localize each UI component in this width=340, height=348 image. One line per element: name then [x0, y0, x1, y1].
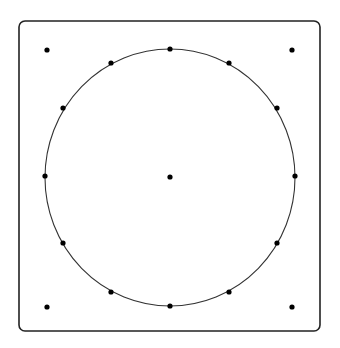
circle-point [108, 289, 113, 294]
circle-point [274, 105, 279, 110]
corner-point [289, 304, 294, 309]
corner-point [289, 47, 294, 52]
circle-point [60, 240, 65, 245]
center-point [167, 174, 172, 179]
corner-point [44, 304, 49, 309]
corner-point [44, 47, 49, 52]
circle-point [42, 173, 47, 178]
circle-point [60, 105, 65, 110]
circle-point [292, 173, 297, 178]
circle-point [274, 240, 279, 245]
circle-point [108, 60, 113, 65]
circle-point [226, 289, 231, 294]
circle-point [167, 303, 172, 308]
circle-point [167, 46, 172, 51]
circle-point [226, 60, 231, 65]
diagram-canvas [0, 0, 340, 348]
